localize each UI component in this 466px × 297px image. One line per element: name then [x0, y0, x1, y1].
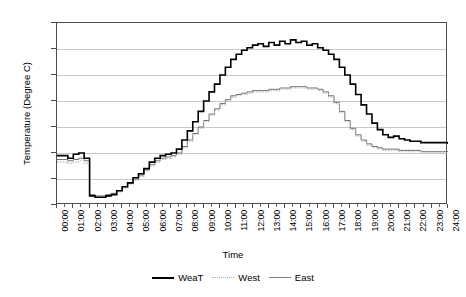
x-tick-label: 03:00	[109, 210, 119, 232]
x-tick-mark	[268, 204, 269, 208]
x-tick-mark	[382, 204, 383, 208]
x-tick-mark	[186, 204, 187, 208]
chart-legend: WeaT West East	[0, 272, 466, 283]
x-tick-mark-minor	[146, 204, 147, 207]
x-tick-mark-minor	[80, 204, 81, 207]
x-tick-mark	[235, 204, 236, 208]
y-axis-title: Temperature (Degree C)	[21, 34, 32, 194]
x-tick-label: 18:00	[353, 210, 363, 232]
x-tick-label: 23:00	[435, 210, 445, 232]
x-tick-label: 01:00	[76, 210, 86, 232]
x-tick-mark	[170, 204, 171, 208]
x-tick-mark	[89, 204, 90, 208]
x-tick-mark-minor	[227, 204, 228, 207]
x-tick-mark	[349, 204, 350, 208]
x-tick-label: 09:00	[207, 210, 217, 232]
x-tick-mark	[121, 204, 122, 208]
x-tick-label: 02:00	[93, 210, 103, 232]
x-tick-label: 24:00	[451, 210, 461, 232]
x-tick-mark-minor	[325, 204, 326, 207]
x-tick-label: 20:00	[386, 210, 396, 232]
legend-label-west: West	[238, 272, 259, 283]
x-tick-label: 05:00	[141, 210, 151, 232]
temperature-line-chart: Temperature (Degree C) 37.035.033.031.02…	[0, 0, 466, 297]
x-tick-label: 14:00	[288, 210, 298, 232]
x-tick-mark-minor	[423, 204, 424, 207]
x-tick-mark-minor	[260, 204, 261, 207]
legend-label-weat: WeaT	[178, 272, 203, 283]
x-tick-mark-minor	[406, 204, 407, 207]
x-tick-mark	[398, 204, 399, 208]
x-tick-mark	[284, 204, 285, 208]
x-tick-mark-minor	[439, 204, 440, 207]
x-tick-mark	[333, 204, 334, 208]
x-tick-mark-minor	[292, 204, 293, 207]
series-line-weat	[57, 40, 448, 197]
x-tick-mark	[105, 204, 106, 208]
x-tick-mark	[447, 204, 448, 208]
x-tick-label: 06:00	[158, 210, 168, 232]
x-tick-mark-minor	[162, 204, 163, 207]
x-tick-mark-minor	[129, 204, 130, 207]
legend-label-east: East	[295, 272, 314, 283]
x-tick-mark	[300, 204, 301, 208]
x-tick-mark	[203, 204, 204, 208]
x-tick-mark-minor	[309, 204, 310, 207]
x-tick-mark	[414, 204, 415, 208]
x-tick-mark	[366, 204, 367, 208]
x-tick-mark-minor	[243, 204, 244, 207]
x-tick-label: 10:00	[223, 210, 233, 232]
x-tick-label: 07:00	[174, 210, 184, 232]
x-tick-label: 21:00	[402, 210, 412, 232]
x-tick-mark-minor	[390, 204, 391, 207]
legend-item-weat: WeaT	[152, 272, 203, 283]
x-tick-mark	[219, 204, 220, 208]
x-tick-mark-minor	[178, 204, 179, 207]
x-tick-mark-minor	[97, 204, 98, 207]
x-tick-mark-minor	[194, 204, 195, 207]
x-tick-mark	[154, 204, 155, 208]
legend-swatch-weat	[152, 277, 174, 279]
x-tick-label: 13:00	[272, 210, 282, 232]
x-tick-mark	[72, 204, 73, 208]
x-tick-mark-minor	[357, 204, 358, 207]
x-tick-mark-minor	[374, 204, 375, 207]
legend-item-east: East	[269, 272, 314, 283]
series-line-west	[57, 88, 448, 197]
x-tick-label: 00:00	[60, 210, 70, 232]
x-tick-label: 22:00	[418, 210, 428, 232]
x-tick-mark	[56, 204, 57, 208]
x-tick-mark-minor	[64, 204, 65, 207]
legend-item-west: West	[212, 272, 259, 283]
x-tick-label: 19:00	[370, 210, 380, 232]
x-tick-mark	[431, 204, 432, 208]
legend-swatch-west	[212, 277, 234, 278]
x-tick-mark-minor	[113, 204, 114, 207]
x-tick-label: 04:00	[125, 210, 135, 232]
series-line-east	[57, 87, 448, 196]
x-tick-label: 12:00	[256, 210, 266, 232]
x-tick-mark	[137, 204, 138, 208]
x-tick-label: 17:00	[337, 210, 347, 232]
x-tick-mark-minor	[276, 204, 277, 207]
legend-swatch-east	[269, 277, 291, 278]
x-tick-mark	[317, 204, 318, 208]
x-tick-mark	[252, 204, 253, 208]
x-tick-mark-minor	[211, 204, 212, 207]
x-tick-label: 16:00	[321, 210, 331, 232]
x-tick-label: 11:00	[239, 210, 249, 231]
x-tick-mark-minor	[341, 204, 342, 207]
x-axis-title: Time	[0, 249, 466, 260]
plot-area	[56, 22, 447, 204]
series-lines	[57, 23, 448, 205]
x-tick-label: 08:00	[190, 210, 200, 232]
x-tick-label: 15:00	[304, 210, 314, 232]
